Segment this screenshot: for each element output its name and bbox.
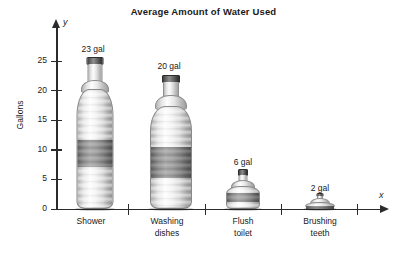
value-label-washing-dishes: 20 gal	[139, 61, 199, 71]
y-tick-label-10: 10	[38, 144, 47, 154]
y-tick-5: 5	[51, 179, 62, 180]
bottle-body-icon	[226, 186, 260, 209]
bottle-shadow	[75, 207, 115, 211]
y-tick-20: 20	[51, 90, 62, 91]
x-axis-arrow-icon	[380, 205, 389, 213]
x-category-label-line1: Brushing	[275, 216, 365, 228]
bottle-body-icon	[77, 89, 114, 209]
bottle-fill-band	[78, 140, 113, 167]
y-tick-label-15: 15	[38, 114, 47, 124]
chart-title: Average Amount of Water Used	[0, 6, 407, 17]
y-axis-title: Gallons	[15, 85, 25, 145]
value-label-shower: 23 gal	[63, 44, 123, 54]
y-tick-10: 10	[51, 149, 62, 150]
chart-container: Average Amount of Water Used y Gallons 0…	[0, 0, 407, 253]
bottle-fill-band	[151, 147, 191, 178]
y-axis-line	[56, 26, 58, 210]
y-tick-label-20: 20	[38, 85, 47, 95]
bar-brushing-teeth	[296, 192, 344, 209]
value-label-flush-toilet: 6 gal	[213, 157, 273, 167]
x-category-label-line2: teeth	[275, 228, 365, 240]
y-tick-15: 15	[51, 120, 62, 121]
y-tick-label-5: 5	[42, 173, 47, 183]
bottle-shadow	[149, 207, 194, 211]
x-axis-name: x	[379, 190, 384, 200]
y-tick-25: 25	[51, 61, 62, 62]
bottle-fill-band	[227, 193, 259, 202]
y-axis-arrow-icon	[52, 19, 60, 28]
bottle-shadow	[225, 207, 262, 211]
x-tick-1	[128, 204, 129, 215]
bar-shower	[72, 57, 118, 209]
x-tick-4	[357, 204, 358, 215]
x-tick-3	[281, 204, 282, 215]
x-tick-2	[205, 204, 206, 215]
y-tick-label-25: 25	[38, 55, 47, 65]
bottle-shadow	[304, 207, 336, 211]
x-category-label-brushing-teeth: Brushing teeth	[275, 216, 365, 239]
y-axis-name: y	[63, 17, 68, 27]
bar-flush-toilet	[219, 169, 267, 209]
y-tick-label-0: 0	[42, 203, 47, 213]
bar-washing-dishes	[147, 75, 195, 209]
bottle-body-icon	[150, 106, 192, 209]
